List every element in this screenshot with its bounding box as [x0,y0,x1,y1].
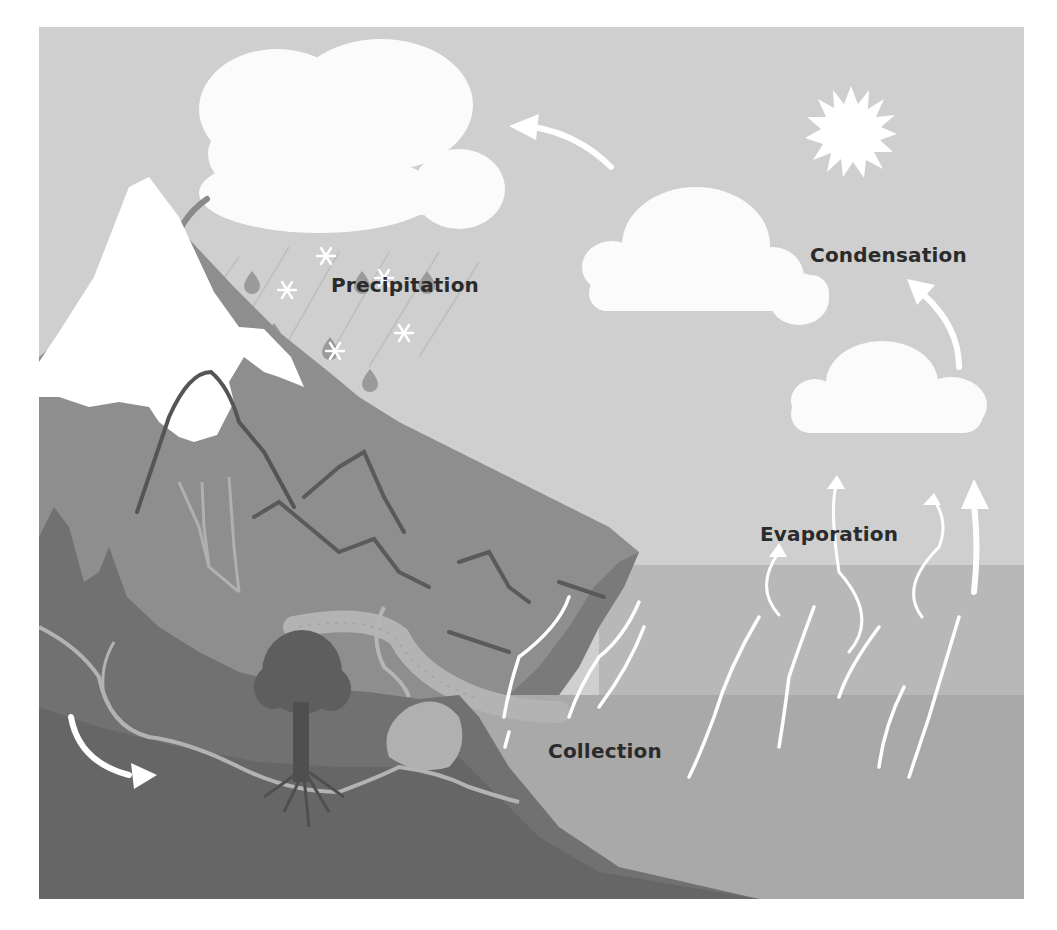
water-surface [599,565,1024,695]
label-precipitation: Precipitation [331,273,479,297]
water-cycle-diagram: Precipitation Condensation Evaporation C… [39,27,1024,899]
label-condensation: Condensation [810,243,967,267]
label-evaporation: Evaporation [760,522,898,546]
label-collection: Collection [548,739,662,763]
